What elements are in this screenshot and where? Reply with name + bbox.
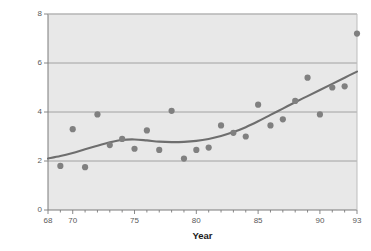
x-tick-label-90: 90 bbox=[309, 216, 331, 225]
bird-count-scatter-chart: Mean number of birds 02468 6870758085909… bbox=[0, 0, 371, 251]
data-point bbox=[243, 133, 249, 139]
data-point bbox=[57, 163, 63, 169]
plot-area bbox=[0, 0, 371, 251]
data-point bbox=[107, 142, 113, 148]
data-point bbox=[193, 147, 199, 153]
data-point bbox=[94, 111, 100, 117]
data-point bbox=[280, 116, 286, 122]
data-point bbox=[342, 83, 348, 89]
y-tick-label-2: 2 bbox=[22, 156, 42, 165]
data-point bbox=[169, 108, 175, 114]
data-point bbox=[119, 136, 125, 142]
data-point bbox=[82, 164, 88, 170]
y-tick-label-0: 0 bbox=[22, 205, 42, 214]
data-point bbox=[329, 84, 335, 90]
x-tick-label-80: 80 bbox=[185, 216, 207, 225]
data-point bbox=[131, 146, 137, 152]
y-tick-label-6: 6 bbox=[22, 58, 42, 67]
y-tick-label-8: 8 bbox=[22, 9, 42, 18]
x-tick-label-68: 68 bbox=[37, 216, 59, 225]
data-point bbox=[255, 102, 261, 108]
data-point bbox=[156, 147, 162, 153]
data-point bbox=[70, 126, 76, 132]
data-point bbox=[206, 144, 212, 150]
x-axis-title: Year bbox=[48, 230, 357, 241]
x-axis-title-label: Year bbox=[192, 230, 212, 241]
y-tick-marks-group bbox=[44, 14, 48, 210]
x-tick-marks-group bbox=[48, 210, 357, 214]
y-tick-label-4: 4 bbox=[22, 107, 42, 116]
x-tick-label-70: 70 bbox=[62, 216, 84, 225]
x-tick-label-75: 75 bbox=[124, 216, 146, 225]
data-point bbox=[181, 155, 187, 161]
data-point bbox=[304, 75, 310, 81]
data-point bbox=[144, 127, 150, 133]
data-point bbox=[230, 130, 236, 136]
data-point bbox=[354, 30, 360, 36]
x-tick-label-93: 93 bbox=[346, 216, 368, 225]
data-point bbox=[218, 122, 224, 128]
data-point bbox=[267, 122, 273, 128]
data-point bbox=[292, 98, 298, 104]
data-point bbox=[317, 111, 323, 117]
x-tick-label-85: 85 bbox=[247, 216, 269, 225]
